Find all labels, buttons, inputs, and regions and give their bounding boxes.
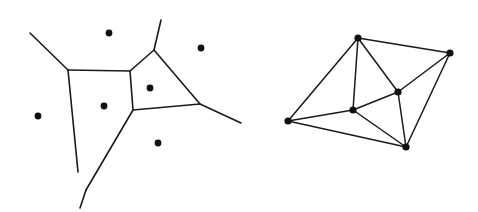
delaunay-node-mid-left <box>349 106 356 113</box>
delaunay-node-left <box>284 117 291 124</box>
voronoi-site-bottom <box>155 140 162 147</box>
figure-root <box>0 0 478 212</box>
voronoi-edge-v1-v2 <box>68 70 130 71</box>
delaunay-node-right <box>446 49 453 56</box>
voronoi-site-center-left <box>101 103 108 110</box>
voronoi-site-top <box>106 30 113 37</box>
delaunay-node-top <box>354 34 361 41</box>
delaunay-node-bottom <box>402 143 409 150</box>
delaunay-node-mid-right <box>394 88 401 95</box>
voronoi-site-left <box>35 113 42 120</box>
voronoi-site-center-right <box>147 85 154 92</box>
voronoi-site-upper-right <box>198 45 205 52</box>
figure-canvas <box>0 0 478 212</box>
